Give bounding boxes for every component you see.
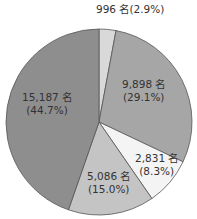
slice-label-text: 996 名(2.9%) — [96, 3, 164, 15]
slice-label-percent: (44.7%) — [22, 104, 72, 117]
slice-label-count: 5,086 名 — [87, 170, 130, 183]
slice-label-percent: (15.0%) — [87, 183, 130, 196]
slice-label-count: 2,831 名 — [135, 152, 178, 165]
slice-label-count: 9,898 名 — [122, 78, 165, 91]
slice-label-9898: 9,898 名 (29.1%) — [122, 78, 165, 104]
slice-label-percent: (8.3%) — [135, 165, 178, 178]
slice-label-5086: 5,086 名 (15.0%) — [87, 170, 130, 196]
slice-label-15187: 15,187 名 (44.7%) — [22, 91, 72, 117]
slice-label-count: 15,187 名 — [22, 91, 72, 104]
slice-label-percent: (29.1%) — [122, 91, 165, 104]
slice-label-996: 996 名(2.9%) — [96, 3, 164, 16]
slice-label-2831: 2,831 名 (8.3%) — [135, 152, 178, 178]
